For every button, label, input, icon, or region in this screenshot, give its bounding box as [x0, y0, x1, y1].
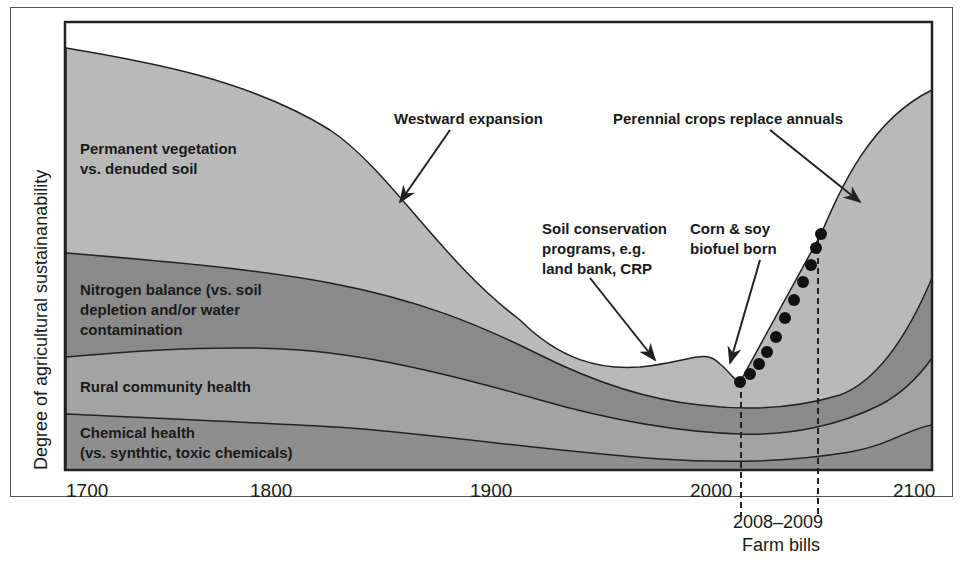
y-axis-label: Degree of agricultural sustainanability	[31, 170, 51, 470]
annotation-westward-expansion: Westward expansion	[394, 110, 543, 127]
chart-canvas: Permanent vegetation vs. denuded soil Ni…	[0, 0, 966, 580]
farm-bills-label: Farm bills	[742, 535, 820, 555]
x-tick-1800: 1800	[250, 480, 292, 501]
label-nitrogen-1: Nitrogen balance (vs. soil	[80, 281, 262, 298]
label-chemical-1: Chemical health	[80, 424, 195, 441]
annotation-soil-conservation-2: programs, e.g.	[542, 240, 645, 257]
label-chemical-2: (vs. synthtic, toxic chemicals)	[80, 444, 293, 461]
x-tick-2100: 2100	[893, 480, 935, 501]
label-nitrogen-3: contamination	[80, 321, 183, 338]
annotation-soil-conservation-3: land bank, CRP	[542, 260, 652, 277]
label-permanent-vegetation-1: Permanent vegetation	[80, 140, 237, 157]
label-nitrogen-2: depletion and/or water	[80, 301, 240, 318]
x-tick-1900: 1900	[470, 480, 512, 501]
annotation-perennial-crops: Perennial crops replace annuals	[613, 110, 843, 127]
x-tick-2000: 2000	[690, 480, 732, 501]
farm-bills-years: 2008–2009	[733, 512, 823, 532]
annotation-soil-conservation-1: Soil conservation	[542, 220, 667, 237]
label-permanent-vegetation-2: vs. denuded soil	[80, 160, 198, 177]
annotation-biofuel-2: biofuel born	[690, 240, 777, 257]
label-rural-community: Rural community health	[80, 378, 251, 395]
x-tick-1700: 1700	[66, 480, 108, 501]
annotation-biofuel-1: Corn & soy	[690, 220, 771, 237]
